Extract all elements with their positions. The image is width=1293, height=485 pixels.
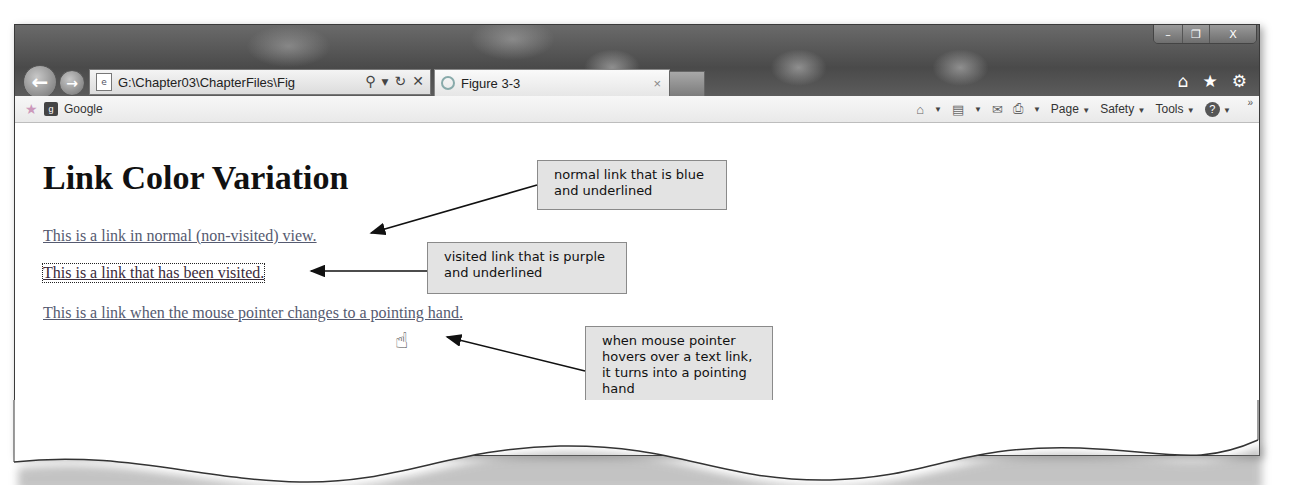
chevron-down-icon[interactable]: ▼ [1033,105,1041,114]
tab-close-button[interactable]: × [653,76,661,91]
forward-button[interactable]: → [59,70,85,96]
tab-title: Figure 3-3 [461,76,653,91]
close-window-button[interactable]: X [1209,25,1256,43]
address-url[interactable]: G:\Chapter03\ChapterFiles\Fig [118,75,365,90]
mail-icon[interactable]: ✉ [992,102,1003,117]
link-normal[interactable]: This is a link in normal (non-visited) v… [43,227,317,245]
refresh-icon[interactable]: ↻ [395,73,407,91]
chevron-down-icon[interactable]: ▼ [934,105,942,114]
tab-figure-3-3[interactable]: Figure 3-3 × [434,69,670,96]
maximize-button[interactable]: ❐ [1182,25,1209,43]
close-icon[interactable]: ✕ [412,73,424,91]
pointing-hand-cursor-icon: ☝ [395,328,408,353]
page-heading: Link Color Variation [43,159,348,197]
rss-feed-icon[interactable]: ▤ [952,102,964,117]
overflow-chevron-icon[interactable]: » [1247,97,1253,108]
callout-normal-link: normal link that is blue and underlined [537,160,727,210]
home-icon[interactable]: ⌂ [916,102,924,117]
menu-tools[interactable]: Tools ▼ [1155,102,1194,116]
search-icon[interactable]: ⚲ [365,73,375,91]
address-bar[interactable]: e G:\Chapter03\ChapterFiles\Fig ⚲ ▼ ↻ ✕ [89,69,431,95]
favorites-bar: ★ g Google [25,101,103,117]
favorites-star-icon[interactable]: ★ [1203,71,1218,91]
menu-safety[interactable]: Safety ▼ [1100,102,1145,116]
home-icon[interactable]: ⌂ [1178,71,1189,91]
ie-icon [441,76,455,90]
settings-gear-icon[interactable]: ⚙ [1232,71,1247,91]
window-controls: – ❐ X [1153,24,1257,44]
help-icon: ? [1205,102,1220,117]
arrow-right-icon: → [66,75,78,91]
menu-page[interactable]: Page ▼ [1051,102,1090,116]
title-bar: ← → e G:\Chapter03\ChapterFiles\Fig ⚲ ▼ … [15,25,1259,96]
command-bar: ★ g Google ⌂▼ ▤▼ ✉ ⎙▼ Page ▼ Safety ▼ To… [15,96,1259,123]
chevron-down-icon[interactable]: ▼ [974,105,982,114]
arrow-left-icon: ← [32,70,49,94]
google-icon: g [44,102,58,116]
favorites-item-google[interactable]: Google [64,102,103,116]
browser-window: ← → e G:\Chapter03\ChapterFiles\Fig ⚲ ▼ … [14,24,1260,456]
new-tab-button[interactable] [669,71,705,97]
callout-visited-link: visited link that is purple and underlin… [427,242,627,294]
minimize-button[interactable]: – [1154,25,1182,43]
help-menu[interactable]: ? ▼ [1205,102,1231,117]
chevron-down-icon[interactable]: ▼ [382,73,389,91]
back-button[interactable]: ← [23,65,57,99]
link-visited[interactable]: This is a link that has been visited. [43,264,264,282]
print-icon[interactable]: ⎙ [1013,101,1023,117]
link-hover[interactable]: This is a link when the mouse pointer ch… [43,304,463,322]
add-favorites-icon[interactable]: ★ [25,101,38,117]
page-icon: e [96,73,112,91]
torn-edge-wave [0,400,1293,485]
